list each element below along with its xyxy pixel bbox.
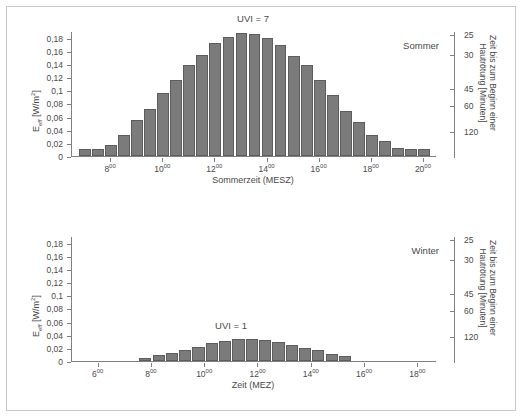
summer-plot-area bbox=[71, 32, 436, 157]
bar bbox=[223, 37, 235, 156]
winter-x-tick bbox=[98, 363, 99, 367]
bar bbox=[272, 342, 284, 361]
summer-x-tick-label-minutes: 00 bbox=[424, 163, 431, 169]
bar bbox=[105, 145, 117, 156]
winter-x-tick bbox=[204, 363, 205, 367]
winter-y-tick-label: 0,18 bbox=[29, 240, 63, 249]
summer-y-tick-label: 0,12 bbox=[29, 74, 63, 83]
winter-y-tick bbox=[67, 270, 71, 271]
summer-right-axis-title-line2: Hautrötung [Minuten] bbox=[477, 35, 487, 131]
bar bbox=[179, 350, 191, 361]
winter-y-tick-label: 0,08 bbox=[29, 305, 63, 314]
bar bbox=[79, 149, 91, 156]
summer-y-tick bbox=[67, 104, 71, 105]
winter-right-axis-line bbox=[454, 237, 455, 363]
bar bbox=[301, 65, 313, 156]
summer-y-tick bbox=[67, 52, 71, 53]
winter-y-tick bbox=[67, 323, 71, 324]
summer-right-y-tick bbox=[450, 132, 454, 133]
summer-y-tick-label: 0,18 bbox=[29, 35, 63, 44]
winter-right-y-tick bbox=[450, 260, 454, 261]
winter-x-tick-label: 600 bbox=[92, 370, 103, 379]
summer-x-tick bbox=[371, 158, 372, 162]
winter-right-y-tick-label: 120 bbox=[464, 333, 478, 342]
bar bbox=[139, 358, 151, 361]
bar bbox=[340, 111, 352, 156]
summer-x-tick-label: 2000 bbox=[415, 165, 431, 174]
winter-x-tick-label-minutes: 00 bbox=[259, 368, 266, 374]
bar bbox=[144, 109, 156, 156]
winter-y-tick bbox=[67, 257, 71, 258]
winter-x-tick-label: 1000 bbox=[196, 370, 212, 379]
winter-x-tick bbox=[151, 363, 152, 367]
summer-x-tick-label-minutes: 00 bbox=[372, 163, 379, 169]
summer-right-y-tick-label: 120 bbox=[464, 128, 478, 137]
winter-y-tick bbox=[67, 244, 71, 245]
winter-x-axis-title: Zeit (MEZ) bbox=[232, 380, 275, 390]
winter-y-tick-label: 0,06 bbox=[29, 319, 63, 328]
summer-right-y-tick bbox=[450, 35, 454, 36]
summer-x-tick-label-minutes: 00 bbox=[216, 163, 223, 169]
summer-y-tick-label: 0 bbox=[29, 153, 63, 162]
bar bbox=[259, 340, 271, 361]
winter-y-tick-label: 0,14 bbox=[29, 266, 63, 275]
bar bbox=[236, 33, 248, 156]
winter-y-tick-label: 0,1 bbox=[29, 292, 63, 301]
summer-right-y-tick-label: 25 bbox=[464, 31, 473, 40]
summer-x-tick bbox=[110, 158, 111, 162]
winter-x-tick-label-minutes: 00 bbox=[365, 368, 372, 374]
summer-y-tick bbox=[67, 144, 71, 145]
winter-x-tick bbox=[364, 363, 365, 367]
summer-x-tick bbox=[423, 158, 424, 162]
bar bbox=[353, 122, 365, 156]
winter-right-y-tick bbox=[450, 240, 454, 241]
bar bbox=[196, 55, 208, 156]
summer-y-tick bbox=[67, 157, 71, 158]
winter-y-tick-label: 0,02 bbox=[29, 345, 63, 354]
summer-y-tick bbox=[67, 78, 71, 79]
summer-right-y-tick bbox=[450, 55, 454, 56]
bar bbox=[153, 355, 165, 361]
bar bbox=[262, 38, 274, 156]
winter-right-axis-title: Zeit bis zum Beginn einer Hautrötung [Mi… bbox=[477, 240, 497, 336]
bar bbox=[246, 339, 258, 361]
winter-right-y-tick bbox=[450, 311, 454, 312]
bar bbox=[92, 149, 104, 156]
winter-y-tick-label: 0,04 bbox=[29, 332, 63, 341]
bar bbox=[339, 356, 351, 361]
winter-x-tick-label: 1800 bbox=[409, 370, 425, 379]
winter-y-tick bbox=[67, 336, 71, 337]
summer-y-tick bbox=[67, 118, 71, 119]
summer-right-axis-line bbox=[454, 32, 455, 158]
bar bbox=[157, 93, 169, 156]
bar bbox=[118, 135, 130, 156]
summer-bar-series bbox=[72, 32, 436, 156]
summer-y-tick-label: 0,08 bbox=[29, 100, 63, 109]
chart-panel-winter: UVI = 1 Winter Eeff [W/m2] Zeit bis zum … bbox=[7, 212, 517, 412]
summer-y-tick bbox=[67, 39, 71, 40]
bar bbox=[131, 120, 143, 156]
bar bbox=[219, 341, 231, 361]
winter-x-tick bbox=[257, 363, 258, 367]
figure-border: UVI = 7 Sommer Eeff [W/m2] Zeit bis zum … bbox=[6, 6, 516, 411]
bar bbox=[299, 348, 311, 361]
winter-x-tick-label-minutes: 00 bbox=[206, 368, 213, 374]
bar bbox=[170, 80, 182, 156]
winter-x-tick-label-minutes: 00 bbox=[150, 368, 157, 374]
chart-panel-summer: UVI = 7 Sommer Eeff [W/m2] Zeit bis zum … bbox=[7, 7, 517, 212]
summer-y-tick-label: 0,04 bbox=[29, 127, 63, 136]
summer-x-tick-label: 1000 bbox=[154, 165, 170, 174]
summer-y-tick bbox=[67, 91, 71, 92]
summer-right-y-tick bbox=[450, 106, 454, 107]
bar bbox=[326, 354, 338, 361]
bar bbox=[288, 56, 300, 156]
winter-right-y-tick bbox=[450, 294, 454, 295]
bar bbox=[312, 350, 324, 361]
summer-x-tick bbox=[214, 158, 215, 162]
summer-x-tick-label: 800 bbox=[104, 165, 115, 174]
summer-x-tick bbox=[267, 158, 268, 162]
bar bbox=[379, 141, 391, 156]
winter-right-axis-title-line2: Hautrötung [Minuten] bbox=[477, 240, 487, 336]
summer-y-tick bbox=[67, 65, 71, 66]
summer-y-tick-label: 0,1 bbox=[29, 87, 63, 96]
